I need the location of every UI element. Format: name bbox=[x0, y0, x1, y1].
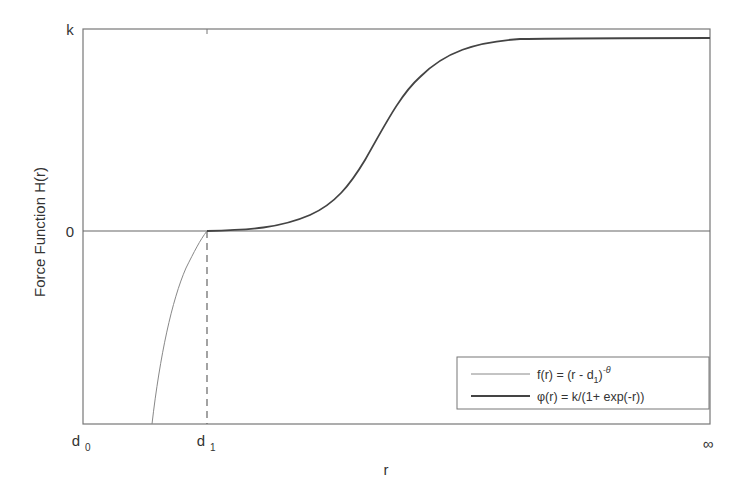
y-axis-title: Force Function H(r) bbox=[31, 167, 48, 297]
x-tick-d1: d 1 bbox=[197, 432, 216, 453]
svg-text:0: 0 bbox=[85, 442, 91, 453]
x-tick-d0: d 0 bbox=[72, 432, 91, 453]
x-tick-infinity: ∞ bbox=[703, 435, 714, 452]
series-phi-curve bbox=[207, 38, 710, 231]
x-axis-title: r bbox=[384, 461, 389, 478]
legend: f(r) = (r - d1)-θ φ(r) = k/(1+ exp(-r)) bbox=[457, 357, 709, 409]
chart-canvas: k 0 d 0 d 1 ∞ r Force Function H(r) f(r)… bbox=[0, 0, 753, 496]
legend-label-phi: φ(r) = k/(1+ exp(-r)) bbox=[537, 390, 644, 404]
y-tick-0: 0 bbox=[66, 223, 74, 240]
y-tick-k: k bbox=[66, 21, 74, 38]
svg-text:d: d bbox=[197, 432, 205, 449]
series-f-curve bbox=[152, 231, 207, 424]
svg-text:d: d bbox=[72, 432, 80, 449]
svg-text:1: 1 bbox=[210, 442, 216, 453]
